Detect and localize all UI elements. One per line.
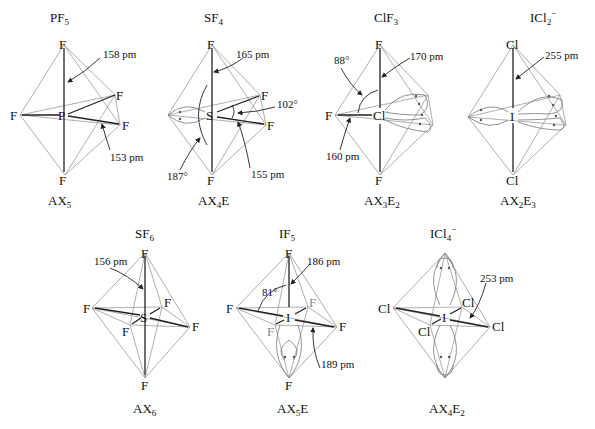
vsepr-type: AX3E2 [364,193,400,210]
molecule-sf4: SF4 F S F F F 165 pm 102° 187° 155 pm AX… [167,10,298,210]
atom-F-top: F [207,37,214,52]
atom-F-top: F [285,246,292,261]
atom-F-eq1: F [116,88,123,103]
atom-I-center: I [286,310,290,325]
molecule-sf6: SF6 F F S F F F F 156 pm AX6 [83,226,199,418]
atom-F-top: F [141,246,148,261]
molecule-clf3: ClF3 F F Cl F 88° 170 pm 160 pm AX3E2 [325,10,444,210]
annotation-angle: 88° [334,54,349,66]
atom-F-left: F [226,301,233,316]
annotation-bond-length: 255 pm [545,49,579,61]
annotation-bond-length: 158 pm [103,48,137,60]
annotation-bond-length: 186 pm [307,255,341,267]
annotation-bond-length: 253 pm [480,272,514,284]
atom-F-left: F [10,108,17,123]
molecule-icl2-anion: ICl2− Cl I Cl 255 pm AX2E3 [468,8,579,210]
atom-F-bottom: F [375,173,382,188]
atom-F-top: F [59,37,66,52]
atom-F-top: F [375,37,382,52]
annotation-bond-length: 153 pm [110,151,144,163]
annotation-bond-length: 155 pm [251,168,285,180]
atom-F-eq1: F [261,88,268,103]
atom-F-eq2: F [267,118,274,133]
annotation-angle: 187° [167,170,188,182]
atom-Cl-right: Cl [492,319,505,334]
annotation-angle: 102° [277,98,298,110]
annotation-bond-length: 156 pm [94,255,128,267]
atom-F-bottom: F [59,173,66,188]
atom-Cl-top: Cl [506,37,519,52]
formula-title: IF5 [279,226,296,243]
atom-F-bottom: F [141,378,148,393]
atom-Cl-center: Cl [373,108,386,123]
atom-Cl-front: Cl [418,324,431,339]
vsepr-type: AX5E [277,401,308,418]
formula-title: SF4 [204,10,223,27]
atom-F-back: F [309,295,316,310]
formula-title: PF5 [50,10,69,27]
formula-title: ICl2− [530,8,556,27]
vsepr-type: AX4E2 [429,401,465,418]
atom-F-front: F [267,324,274,339]
atom-I-center: I [510,109,514,124]
annotation-bond-length: 170 pm [410,50,444,62]
atom-S-center: S [206,108,213,123]
atom-F-back: F [164,295,171,310]
vsepr-type: AX6 [133,401,157,418]
atom-I-center: I [442,310,446,325]
formula-title: ICl4− [430,224,456,243]
atom-F-front: F [122,324,129,339]
molecule-pf5: PF5 F F P F F F 158 pm 153 pm AX5 [10,10,144,210]
vsepr-type: AX2E3 [500,193,536,210]
annotation-bond-length: 160 pm [326,150,360,162]
vsepr-type: AX5 [48,193,72,210]
atom-S-center: S [140,310,147,325]
atom-F-bottom: F [285,378,292,393]
vsepr-figure: PF5 F F P F F F 158 pm 153 pm AX5 SF4 F … [0,0,595,429]
atom-Cl-left: Cl [378,301,391,316]
annotation-bond-length: 189 pm [321,358,355,370]
atom-F-right: F [339,319,346,334]
atom-F-left: F [83,301,90,316]
atom-F-eq2: F [122,118,129,133]
atom-F-right: F [192,319,199,334]
formula-title: ClF3 [374,10,399,27]
vsepr-type: AX4E [198,193,229,210]
atom-F-left: F [325,108,332,123]
atom-P-center: P [58,108,65,123]
annotation-angle: 81° [262,286,277,298]
atom-F-bottom: F [207,173,214,188]
annotation-bond-length: 165 pm [236,48,270,60]
atom-Cl-back: Cl [462,295,475,310]
atom-Cl-bottom: Cl [506,173,519,188]
molecule-if5: IF5 F F I F F F F 186 pm 81° 189 pm AX5E [226,226,355,418]
molecule-icl4-anion: ICl4− Cl I Cl Cl Cl 253 pm AX4E2 [378,224,514,418]
formula-title: SF6 [135,226,154,243]
